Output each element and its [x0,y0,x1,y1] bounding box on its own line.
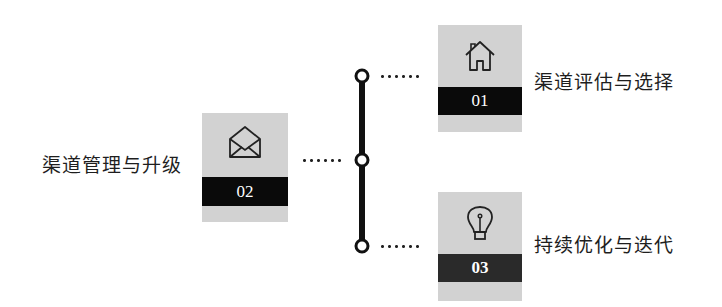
timeline-node-02 [356,154,368,166]
dotted-connector-02 [301,159,345,162]
timeline-node-03 [356,240,368,252]
step-number-02: 02 [202,177,288,206]
step-card-02: 02 [202,113,288,222]
dotted-connector-01 [379,75,423,78]
step-number-03: 03 [438,254,522,282]
timeline-connector [350,64,374,260]
timeline-node-01 [356,70,368,82]
step-card-01: 01 [438,25,522,132]
step-number-01: 01 [438,87,522,115]
envelope-icon [227,124,263,160]
house-icon [463,39,497,73]
step-label-01: 渠道评估与选择 [534,67,674,94]
step-label-03: 持续优化与迭代 [534,230,674,257]
lightbulb-icon [465,205,495,245]
dotted-connector-03 [379,245,423,248]
step-card-03: 03 [438,192,522,301]
step-label-02: 渠道管理与升级 [42,150,182,177]
